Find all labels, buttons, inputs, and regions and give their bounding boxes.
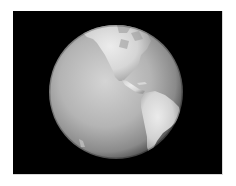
globe-image: [13, 11, 222, 174]
image-frame: [13, 11, 223, 175]
